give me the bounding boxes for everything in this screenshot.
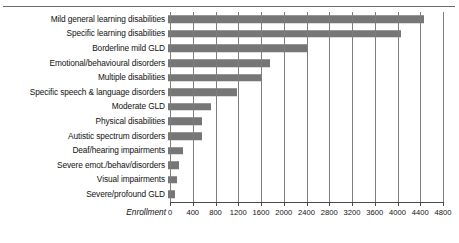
category-label: Severe emot./behav/disorders bbox=[0, 161, 168, 170]
data-bar bbox=[168, 16, 424, 24]
chart-row: Mild general learning disabilities bbox=[0, 12, 459, 27]
category-label: Moderate GLD bbox=[0, 102, 168, 111]
bar-track bbox=[168, 56, 459, 71]
x-tick-label: 1600 bbox=[253, 208, 270, 217]
axis-tick bbox=[307, 202, 308, 206]
bar-track bbox=[168, 173, 459, 188]
chart-row: Severe/profound GLD bbox=[0, 187, 459, 202]
data-bar bbox=[168, 161, 179, 169]
x-tick-label: 3600 bbox=[366, 208, 383, 217]
x-tick-label: 4800 bbox=[435, 208, 452, 217]
chart-row: Visual impairments bbox=[0, 173, 459, 188]
axis-tick bbox=[443, 202, 444, 206]
axis-tick bbox=[193, 202, 194, 206]
bar-track bbox=[168, 158, 459, 173]
axis-tick bbox=[329, 202, 330, 206]
bar-track bbox=[168, 129, 459, 144]
category-label: Mild general learning disabilities bbox=[0, 15, 168, 24]
data-bar bbox=[168, 45, 307, 53]
category-label: Specific learning disabilities bbox=[0, 29, 168, 38]
axis-tick bbox=[375, 202, 376, 206]
data-bar bbox=[168, 89, 237, 97]
data-bar bbox=[168, 103, 211, 111]
category-label: Multiple disabilities bbox=[0, 73, 168, 82]
x-tick-label: 2800 bbox=[321, 208, 338, 217]
data-bar bbox=[168, 118, 202, 126]
x-tick-label: 4400 bbox=[412, 208, 429, 217]
x-tick-label: 2400 bbox=[298, 208, 315, 217]
category-label: Severe/profound GLD bbox=[0, 190, 168, 199]
bar-track bbox=[168, 100, 459, 115]
bar-track bbox=[168, 12, 459, 27]
x-tick-label: 4000 bbox=[389, 208, 406, 217]
bar-track bbox=[168, 187, 459, 202]
x-tick-label: 2000 bbox=[275, 208, 292, 217]
axis-tick bbox=[261, 202, 262, 206]
x-tick-label: 800 bbox=[209, 208, 222, 217]
bar-track bbox=[168, 70, 459, 85]
chart-row: Emotional/behavioural disorders bbox=[0, 56, 459, 71]
bar-track bbox=[168, 114, 459, 129]
chart-row: Autistic spectrum disorders bbox=[0, 129, 459, 144]
chart-figure: Mild general learning disabilitiesSpecif… bbox=[0, 0, 459, 243]
axis-tick bbox=[170, 202, 171, 206]
data-bar bbox=[168, 176, 177, 184]
category-label: Specific speech & language disorders bbox=[0, 88, 168, 97]
chart-row: Specific learning disabilities bbox=[0, 27, 459, 42]
bar-track bbox=[168, 41, 459, 56]
x-tick-label: 0 bbox=[168, 208, 172, 217]
x-tick-label: 1200 bbox=[230, 208, 247, 217]
chart-row: Borderline mild GLD bbox=[0, 41, 459, 56]
category-label: Visual impairments bbox=[0, 175, 168, 184]
axis-tick bbox=[420, 202, 421, 206]
axis-tick bbox=[216, 202, 217, 206]
category-label: Physical disabilities bbox=[0, 117, 168, 126]
data-bar bbox=[168, 147, 183, 155]
bar-track bbox=[168, 85, 459, 100]
chart-row: Physical disabilities bbox=[0, 114, 459, 129]
chart-row: Multiple disabilities bbox=[0, 70, 459, 85]
axis-tick bbox=[352, 202, 353, 206]
axis-tick bbox=[398, 202, 399, 206]
data-bar bbox=[168, 191, 175, 199]
category-label: Autistic spectrum disorders bbox=[0, 132, 168, 141]
x-axis-tick-labels: Enrollment 04008001200160020002400280032… bbox=[0, 208, 459, 222]
data-bar bbox=[168, 59, 270, 67]
chart-row: Severe emot./behav/disorders bbox=[0, 158, 459, 173]
axis-tick bbox=[284, 202, 285, 206]
data-bar bbox=[168, 30, 401, 38]
chart-row: Moderate GLD bbox=[0, 100, 459, 115]
axis-tick bbox=[238, 202, 239, 206]
x-axis-title: Enrollment bbox=[104, 208, 166, 217]
chart-rows: Mild general learning disabilitiesSpecif… bbox=[0, 12, 459, 202]
data-bar bbox=[168, 74, 262, 82]
data-bar bbox=[168, 132, 202, 140]
bar-chart: Mild general learning disabilitiesSpecif… bbox=[0, 12, 459, 243]
category-label: Emotional/behavioural disorders bbox=[0, 59, 168, 68]
category-label: Borderline mild GLD bbox=[0, 44, 168, 53]
chart-row: Deaf/hearing impairments bbox=[0, 143, 459, 158]
category-label: Deaf/hearing impairments bbox=[0, 146, 168, 155]
chart-row: Specific speech & language disorders bbox=[0, 85, 459, 100]
top-divider-rule bbox=[3, 6, 455, 7]
x-tick-label: 3200 bbox=[344, 208, 361, 217]
x-tick-label: 400 bbox=[186, 208, 199, 217]
bar-track bbox=[168, 143, 459, 158]
bar-track bbox=[168, 27, 459, 42]
